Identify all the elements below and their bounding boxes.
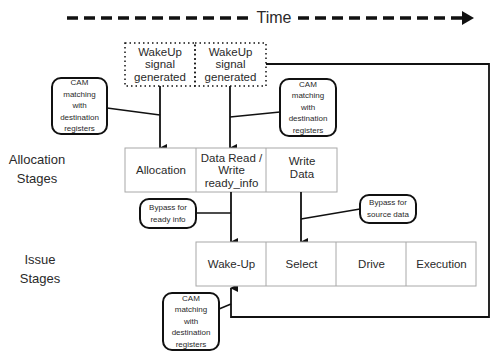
stage-data-read-write-ready-info: Data Read / Write ready_info [197,149,266,192]
stage-wake-up: Wake-Up [197,243,266,286]
wakeup-signal-box-2: WakeUp signal generated [196,44,265,85]
cam-matching-callout-bottom: CAM matching with destination registers [164,294,218,349]
cam-matching-callout-left: CAM matching with destination registers [53,79,106,133]
cam-matching-callout-right: CAM matching with destination registers [281,80,335,135]
stage-write-data: Write Data [267,146,337,189]
stage-execution: Execution [407,243,476,286]
issue-stages-label: Issue Stages [2,250,78,290]
time-label: Time [250,7,298,29]
stage-allocation: Allocation [126,149,196,192]
wakeup-signal-box-1: WakeUp signal generated [126,44,194,85]
cam-bottom-connector [219,304,231,309]
stage-drive: Drive [337,243,406,286]
allocation-stages-label: Allocation Stages [2,150,72,190]
cam-left-connector [107,108,160,115]
cam-right-connector [230,112,280,117]
bypass-source-connector [301,209,360,219]
bypass-ready-info-callout: Bypass for ready info [141,200,195,227]
stage-select: Select [267,243,336,286]
bypass-source-data-callout: Bypass for source data [361,196,415,222]
